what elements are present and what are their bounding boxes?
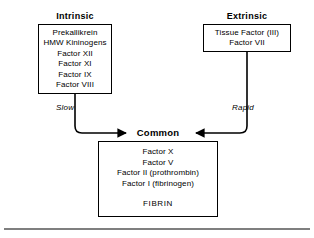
intrinsic-factor-item: Factor XII	[57, 49, 93, 60]
common-factors-box: Factor X Factor V Factor II (prothrombin…	[98, 141, 218, 217]
common-factor-item: Factor V	[142, 158, 173, 169]
common-factor-item: Factor II (prothrombin)	[117, 168, 199, 179]
slow-edge-label: Slow	[56, 103, 74, 112]
common-heading: Common	[128, 127, 188, 138]
coagulation-cascade-diagram: Intrinsic Prekallikrein HMW Kininogens F…	[0, 0, 314, 238]
intrinsic-factor-item: Factor IX	[58, 70, 91, 81]
intrinsic-factor-item: HMW Kininogens	[43, 38, 106, 49]
intrinsic-factor-item: Prekallikrein	[53, 28, 98, 39]
intrinsic-heading: Intrinsic	[38, 11, 112, 21]
extrinsic-factor-item: Tissue Factor (III)	[215, 28, 279, 39]
common-factor-item: Factor X	[142, 147, 173, 158]
intrinsic-factor-item: Factor VIII	[56, 80, 94, 91]
rapid-edge-label: Rapid	[232, 103, 254, 112]
fibrin-wrapper: FIBRIN	[99, 199, 217, 208]
extrinsic-factors-box: Tissue Factor (III) Factor VII	[203, 24, 291, 52]
extrinsic-heading: Extrinsic	[203, 11, 291, 21]
extrinsic-factor-item: Factor VII	[229, 38, 265, 49]
common-factor-item: Factor I (fibrinogen)	[122, 179, 194, 190]
intrinsic-to-common-connector	[75, 94, 126, 133]
common-factor-list: Factor X Factor V Factor II (prothrombin…	[99, 147, 217, 189]
extrinsic-to-common-connector	[196, 52, 247, 133]
fibrin-product-label: FIBRIN	[143, 199, 173, 208]
intrinsic-factors-box: Prekallikrein HMW Kininogens Factor XII …	[38, 24, 112, 94]
intrinsic-factor-item: Factor XI	[58, 59, 91, 70]
